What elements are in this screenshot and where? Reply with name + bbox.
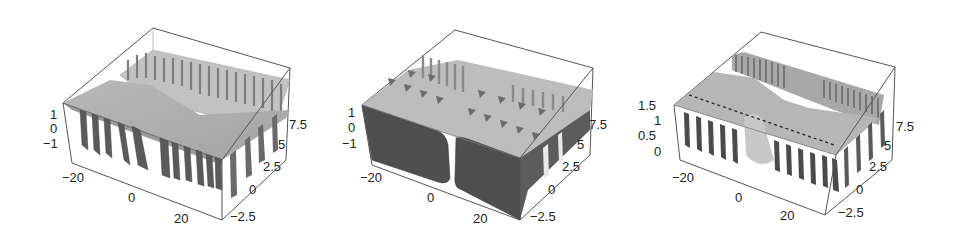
z-tick-label: 1 <box>654 114 661 127</box>
y-tick-label: −2.5 <box>230 210 256 223</box>
z-tick-label: 0 <box>348 121 355 134</box>
surface-plot-a: 1 0 −1 −20 0 20 7.5 5 2.5 0 −2.5 <box>0 0 318 246</box>
y-tick-label: 0 <box>548 183 555 196</box>
y-tick-label: 2.5 <box>263 160 281 173</box>
y-tick-label: 7.5 <box>896 120 914 133</box>
x-tick-label: 20 <box>473 212 487 225</box>
z-tick-label: 0 <box>50 122 57 135</box>
x-tick-label: 20 <box>780 209 794 222</box>
y-tick-label: 2.5 <box>869 160 887 173</box>
y-tick-label: −2.5 <box>530 210 556 223</box>
y-tick-label: 7.5 <box>289 118 307 131</box>
x-tick-label: −20 <box>62 171 84 184</box>
z-tick-label: 0 <box>654 145 661 158</box>
x-tick-label: −20 <box>360 171 382 184</box>
z-tick-label: 0.5 <box>638 129 656 142</box>
y-tick-label: 0 <box>249 183 256 196</box>
y-tick-label: 7.5 <box>589 118 607 131</box>
y-tick-label: 5 <box>884 139 891 152</box>
y-tick-label: 5 <box>278 138 285 151</box>
z-tick-label: 1 <box>50 108 57 121</box>
z-tick-label: 1.5 <box>638 99 656 112</box>
y-tick-label: 2.5 <box>562 160 580 173</box>
surface-plot-b: 1 0 −1 −20 0 20 7.5 5 2.5 0 −2.5 <box>318 0 636 246</box>
z-tick-label: −1 <box>43 137 58 150</box>
y-tick-label: 5 <box>577 138 584 151</box>
x-tick-label: 20 <box>174 212 188 225</box>
z-tick-label: −1 <box>342 137 357 150</box>
x-tick-label: 0 <box>128 191 135 204</box>
z-tick-label: 1 <box>348 106 355 119</box>
x-tick-label: 0 <box>735 191 742 204</box>
x-tick-label: 0 <box>427 191 434 204</box>
y-tick-label: −2.5 <box>838 206 864 219</box>
plot-a-canvas <box>0 0 318 246</box>
surface-plot-c: 1.5 1 0.5 0 −20 0 20 7.5 5 2.5 0 −2.5 <box>634 0 952 246</box>
x-tick-label: −20 <box>672 171 694 184</box>
y-tick-label: 0 <box>856 183 863 196</box>
